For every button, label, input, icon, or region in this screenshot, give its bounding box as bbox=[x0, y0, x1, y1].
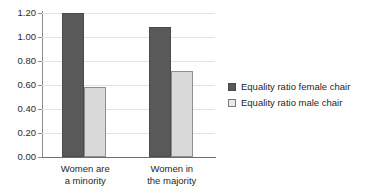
y-axis-tick-label: 0.80 bbox=[0, 56, 36, 66]
y-axis-tick-label: 0.20 bbox=[0, 128, 36, 138]
legend-swatch-icon-female-chair bbox=[228, 83, 236, 91]
legend-item-female-chair[interactable]: Equality ratio female chair bbox=[228, 80, 350, 93]
bar-chart: 0.000.200.400.600.801.001.20 Women area … bbox=[0, 0, 385, 195]
x-axis-category-label: Women inthe majority bbox=[112, 163, 232, 187]
y-axis-tick-label: 0.60 bbox=[0, 80, 36, 90]
y-axis-tick-label: 0.40 bbox=[0, 104, 36, 114]
bar-female-chair bbox=[149, 27, 171, 157]
x-axis-line bbox=[42, 157, 216, 158]
y-axis-tick-label: 1.20 bbox=[0, 8, 36, 18]
category-label-line: Women in bbox=[112, 163, 232, 175]
bar-female-chair bbox=[62, 13, 84, 157]
plot-area bbox=[42, 13, 215, 157]
y-axis-tick-label: 0.00 bbox=[0, 152, 36, 162]
y-axis-tick-label: 1.00 bbox=[0, 32, 36, 42]
bar-male-chair bbox=[171, 71, 193, 157]
category-label-line: the majority bbox=[112, 175, 232, 187]
legend: Equality ratio female chair Equality rat… bbox=[228, 80, 350, 112]
legend-label-male-chair: Equality ratio male chair bbox=[241, 98, 342, 108]
legend-label-female-chair: Equality ratio female chair bbox=[241, 82, 350, 92]
bar-male-chair bbox=[84, 87, 106, 157]
legend-swatch-icon-male-chair bbox=[228, 99, 236, 107]
legend-item-male-chair[interactable]: Equality ratio male chair bbox=[228, 96, 350, 109]
